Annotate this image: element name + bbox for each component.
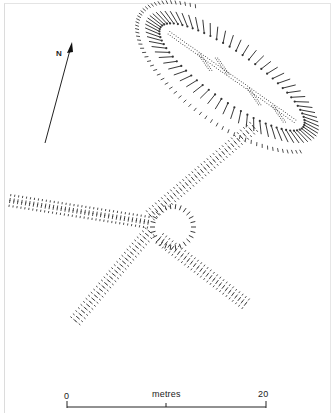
scale-min-label: 0 <box>64 391 69 401</box>
linear-banks <box>9 122 258 325</box>
site-plan <box>0 0 336 417</box>
scale-unit-label: metres <box>152 389 181 399</box>
scale-max-label: 20 <box>258 389 268 399</box>
scale-bar <box>67 401 266 408</box>
north-label: N <box>56 49 62 58</box>
oval-enclosure <box>135 0 319 153</box>
